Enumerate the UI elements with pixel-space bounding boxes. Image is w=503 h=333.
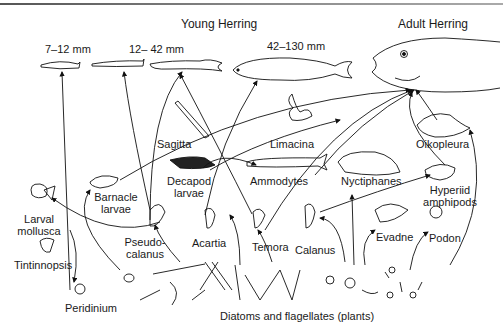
label-peridinium: Peridinium — [65, 302, 117, 314]
label-sagitta: Sagitta — [157, 138, 191, 150]
oikopleura-icon — [417, 114, 470, 137]
size-label-12-42: 12– 42 mm — [129, 43, 184, 55]
evadne-icon — [375, 204, 408, 222]
label-hyperiid-amphipods: Hyperiid amphipods — [420, 184, 480, 208]
label-podon: Podon — [429, 232, 461, 244]
label-limacina: Limacina — [270, 138, 314, 150]
label-hyperiid-line2: amphipods — [420, 196, 480, 208]
label-barnacle-line2: larvae — [91, 203, 141, 215]
label-acartia: Acartia — [192, 237, 226, 249]
label-oikopleura: Oikopleura — [416, 138, 469, 150]
label-tintinnopsis: Tintinnopsis — [14, 259, 72, 271]
larva-12-42b-icon — [150, 60, 222, 71]
label-decapod-line1: Decapod — [164, 175, 214, 187]
adult-herring-icon — [372, 38, 500, 92]
label-diatoms-flagellates: Diatoms and flagellates (plants) — [220, 310, 374, 322]
label-decapod-larvae: Decapod larvae — [164, 175, 214, 199]
hyperiid-icon — [425, 164, 455, 180]
acartia-icon — [205, 208, 215, 228]
label-temora: Temora — [252, 241, 289, 253]
label-calanus: Calanus — [295, 244, 335, 256]
label-barnacle-line1: Barnacle — [91, 191, 141, 203]
label-larval-mollusca: Larval mollusca — [14, 213, 64, 237]
label-larval-line2: mollusca — [14, 225, 64, 237]
calanus-icon — [305, 204, 315, 228]
label-evadne: Evadne — [376, 231, 413, 243]
peridinium-icon — [75, 284, 85, 294]
diatoms-icon — [124, 262, 422, 305]
label-ammodytes: Ammodytes — [250, 175, 308, 187]
label-larval-line1: Larval — [14, 213, 64, 225]
temora-icon — [253, 209, 265, 228]
heading-adult-herring: Adult Herring — [398, 18, 468, 30]
label-nyctiphanes: Nyctiphanes — [341, 175, 402, 187]
larva-12-42-icon — [92, 59, 144, 67]
label-pseudocalanus: Pseudo- calanus — [120, 236, 170, 260]
decapod-larvae-icon — [170, 157, 215, 169]
size-label-42-130: 42–130 mm — [267, 40, 325, 52]
juvenile-herring-icon — [233, 58, 352, 80]
label-pseudo-line2: calanus — [120, 248, 170, 260]
barnacle-larvae-icon — [90, 176, 118, 188]
size-label-7-12: 7–12 mm — [45, 43, 91, 55]
label-decapod-line2: larvae — [164, 187, 214, 199]
larva-7-12-icon — [41, 62, 80, 69]
label-barnacle-larvae: Barnacle larvae — [91, 191, 141, 215]
nyctiphanes-icon — [338, 152, 400, 175]
heading-young-herring: Young Herring — [181, 18, 257, 30]
label-hyperiid-line1: Hyperiid — [420, 184, 480, 196]
ammodytes-icon — [247, 154, 327, 170]
larval-mollusca-icon — [31, 184, 55, 200]
tintinnopsis-icon — [40, 238, 54, 252]
label-pseudo-line1: Pseudo- — [120, 236, 170, 248]
limacina-icon — [289, 94, 312, 121]
